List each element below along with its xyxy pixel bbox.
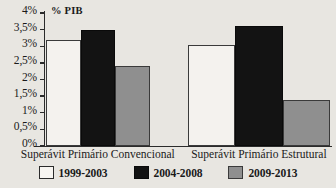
legend-item-label: 1999-2003 [59, 167, 108, 179]
bar-2009-2013-convencional [115, 66, 150, 146]
legend-swatch-icon [228, 166, 243, 179]
x-axis-category-label: Superávit Primário Convencional [18, 148, 178, 161]
y-axis-tick-label: 1% [22, 105, 37, 117]
y-axis-tick-label: 0,5% [14, 121, 37, 133]
y-axis-tick-label: 2% [22, 72, 37, 84]
legend-item-label: 2009-2013 [248, 167, 297, 179]
x-axis-category-label: Superávit Primário Estrutural [179, 148, 336, 161]
bar-1999-2003-convencional [46, 40, 81, 146]
y-axis-tick-label: 1,5% [14, 88, 37, 100]
bar-chart: % PIB 4%3,5%3%2,5%2%1,5%1%0,5%0% Superáv… [0, 0, 336, 188]
legend-item-label: 2004-2008 [154, 167, 203, 179]
bar-1999-2003-estrutural [188, 45, 235, 146]
y-axis-tick-label: 3% [22, 38, 37, 50]
plot-area [45, 13, 330, 146]
y-axis-tick-label: 2,5% [14, 55, 37, 67]
legend-swatch-icon [134, 166, 149, 179]
bar-2004-2008-convencional [81, 30, 116, 146]
legend-item-2004-2008[interactable]: 2004-2008 [134, 166, 203, 179]
chart-legend: 1999-20032004-20082009-2013 [0, 166, 336, 179]
y-axis-tick-label: 3,5% [14, 22, 37, 34]
y-axis-tick-label: 4% [22, 5, 37, 17]
legend-item-2009-2013[interactable]: 2009-2013 [228, 166, 297, 179]
bar-2009-2013-estrutural [283, 100, 330, 146]
legend-swatch-icon [39, 166, 54, 179]
legend-item-1999-2003[interactable]: 1999-2003 [39, 166, 108, 179]
bar-2004-2008-estrutural [235, 26, 282, 146]
